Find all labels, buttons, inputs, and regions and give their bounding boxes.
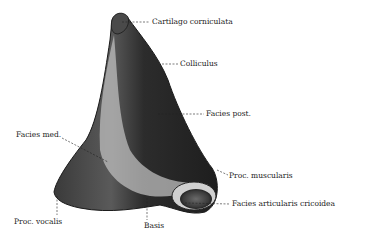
label-facies-med: Facies med. <box>16 131 61 139</box>
label-facies-articularis-cricoidea: Facies articularis cricoidea <box>232 200 335 208</box>
label-basis: Basis <box>144 222 164 230</box>
label-proc-muscularis: Proc. muscularis <box>229 172 293 180</box>
label-proc-vocalis: Proc. vocalis <box>14 218 62 226</box>
label-facies-post: Facies post. <box>206 110 251 118</box>
label-colliculus: Colliculus <box>180 60 218 68</box>
label-cartilago-corniculata: Cartilago corniculata <box>152 18 233 26</box>
arytenoid-illustration: Cartilago corniculata Colliculus Facies … <box>0 0 373 238</box>
